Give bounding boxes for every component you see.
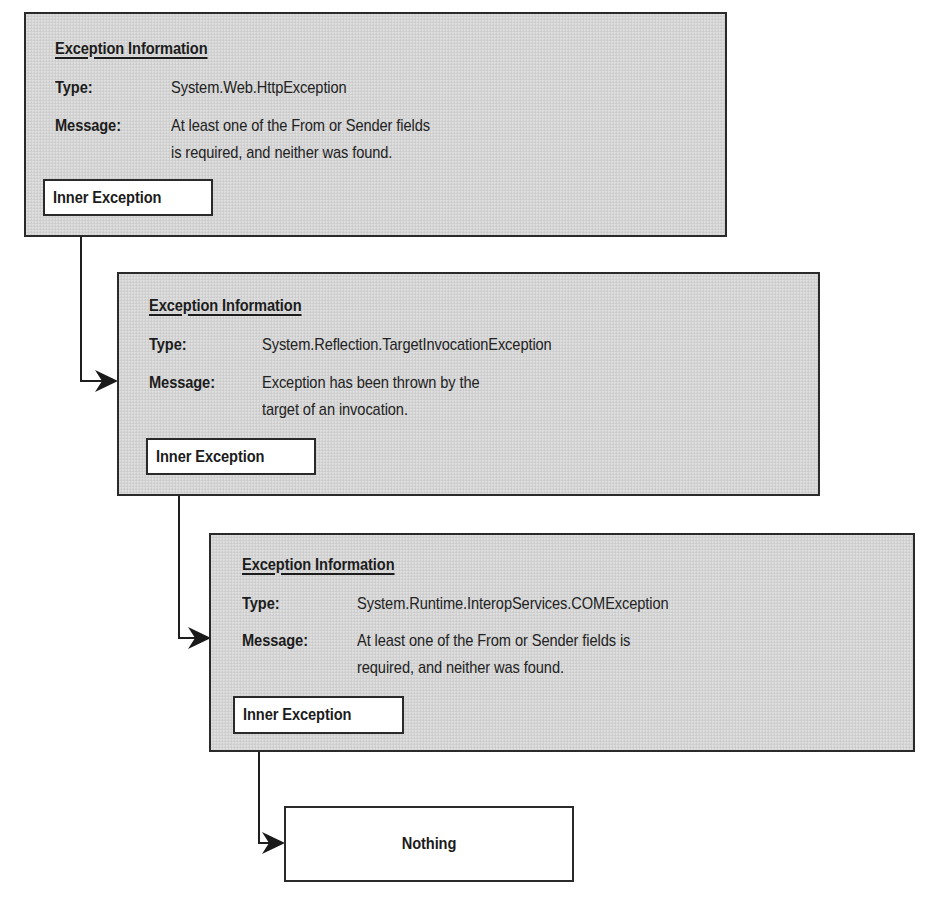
- arrowhead-icon: [95, 370, 118, 392]
- exception-box-1: Exception Information Type: System.Web.H…: [24, 12, 727, 237]
- arrowhead-icon: [262, 832, 285, 854]
- message-line-1: At least one of the From or Sender field…: [357, 631, 630, 651]
- inner-exception-label: Inner Exception: [243, 705, 351, 725]
- type-label: Type:: [149, 335, 186, 355]
- exception-heading: Exception Information: [242, 555, 395, 575]
- type-value: System.Web.HttpException: [171, 78, 347, 98]
- connector-2-to-3: [179, 474, 201, 638]
- nothing-label: Nothing: [402, 834, 457, 854]
- exception-heading: Exception Information: [55, 39, 208, 59]
- inner-exception-button[interactable]: Inner Exception: [43, 179, 213, 216]
- message-line-2: required, and neither was found.: [357, 658, 564, 678]
- exception-heading: Exception Information: [149, 296, 302, 316]
- inner-exception-label: Inner Exception: [53, 188, 161, 208]
- type-label: Type:: [55, 78, 92, 98]
- inner-exception-button[interactable]: Inner Exception: [146, 438, 316, 475]
- message-line-1: At least one of the From or Sender field…: [171, 116, 430, 136]
- message-label: Message:: [242, 631, 308, 651]
- message-line-2: target of an invocation.: [262, 400, 408, 420]
- exception-box-3: Exception Information Type: System.Runti…: [209, 533, 915, 752]
- type-value: System.Runtime.InteropServices.COMExcept…: [357, 594, 669, 614]
- message-label: Message:: [149, 373, 215, 393]
- nothing-box: Nothing: [284, 806, 574, 882]
- message-label: Message:: [55, 116, 121, 136]
- message-line-1: Exception has been thrown by the: [262, 373, 480, 393]
- message-line-2: is required, and neither was found.: [171, 143, 392, 163]
- type-label: Type:: [242, 594, 279, 614]
- exception-box-2: Exception Information Type: System.Refle…: [117, 272, 820, 496]
- inner-exception-button[interactable]: Inner Exception: [233, 696, 404, 734]
- arrowhead-icon: [188, 627, 211, 649]
- connector-1-to-2: [81, 214, 108, 381]
- inner-exception-label: Inner Exception: [156, 447, 264, 467]
- type-value: System.Reflection.TargetInvocationExcept…: [262, 335, 552, 355]
